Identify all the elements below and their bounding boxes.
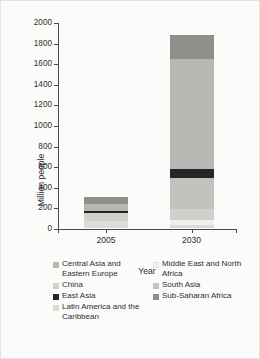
- legend-label: Middle East and North Africa: [162, 259, 253, 279]
- legend-label: China: [62, 280, 83, 290]
- legend-label: Sub-Saharan Africa: [162, 291, 231, 301]
- legend-label: East Asia: [62, 291, 95, 301]
- bar-segment: [170, 178, 214, 209]
- chart-figure: Million people 0200400600800100012001400…: [0, 0, 260, 359]
- legend-column-left: Central Asia and Eastern EuropeChinaEast…: [53, 259, 147, 322]
- y-tick-mark: [54, 147, 58, 148]
- x-tick-mark: [192, 229, 193, 233]
- bar-segment: [84, 213, 128, 221]
- legend-swatch-icon: [53, 262, 59, 268]
- y-tick-label: 1200: [34, 101, 52, 109]
- legend-item[interactable]: Sub-Saharan Africa: [153, 291, 253, 301]
- y-tick-mark: [54, 105, 58, 106]
- x-tick-mark: [106, 229, 107, 233]
- bar-segment: [84, 221, 128, 228]
- y-tick-label: 200: [38, 204, 52, 212]
- legend-item[interactable]: East Asia: [53, 291, 147, 301]
- legend-swatch-icon: [153, 283, 159, 289]
- legend-item[interactable]: South Asia: [153, 280, 253, 290]
- y-tick-label: 2000: [34, 19, 52, 27]
- legend-label: South Asia: [162, 280, 200, 290]
- bar-segment: [170, 35, 214, 58]
- legend-swatch-icon: [153, 262, 159, 268]
- y-tick-label: 1600: [34, 60, 52, 68]
- legend-swatch-icon: [53, 294, 59, 300]
- y-tick-label: 600: [38, 163, 52, 171]
- x-tick-label: 2030: [182, 235, 201, 245]
- y-tick-mark: [54, 85, 58, 86]
- y-tick-label: 1000: [34, 122, 52, 130]
- legend-item[interactable]: Middle East and North Africa: [153, 259, 253, 279]
- y-tick-label: 800: [38, 142, 52, 150]
- y-tick-mark: [54, 167, 58, 168]
- stacked-bar: [84, 197, 128, 228]
- chart-legend: Central Asia and Eastern EuropeChinaEast…: [53, 259, 253, 322]
- bar-segment: [170, 225, 214, 228]
- bar-segment: [170, 169, 214, 178]
- y-tick-label: 1400: [34, 81, 52, 89]
- y-tick-label: 0: [47, 225, 52, 233]
- y-tick-mark: [54, 188, 58, 189]
- legend-item[interactable]: China: [53, 280, 147, 290]
- y-tick-mark: [54, 208, 58, 209]
- y-tick-label: 400: [38, 184, 52, 192]
- stacked-bar: [170, 35, 214, 228]
- y-tick-mark: [54, 64, 58, 65]
- legend-swatch-icon: [53, 305, 59, 311]
- x-axis-end-tick: [58, 229, 59, 233]
- legend-label: Latin America and the Caribbean: [62, 302, 147, 322]
- y-tick-label: 1800: [34, 39, 52, 47]
- bar-segment: [170, 209, 214, 220]
- legend-item[interactable]: Latin America and the Caribbean: [53, 302, 147, 322]
- legend-label: Central Asia and Eastern Europe: [62, 259, 147, 279]
- x-tick-label: 2005: [96, 235, 115, 245]
- legend-swatch-icon: [53, 283, 59, 289]
- y-tick-mark: [54, 44, 58, 45]
- y-tick-mark: [54, 23, 58, 24]
- legend-column-right: Middle East and North AfricaSouth AsiaSu…: [153, 259, 253, 322]
- plot-area: 0200400600800100012001400160018002000 20…: [58, 23, 236, 229]
- legend-swatch-icon: [153, 294, 159, 300]
- x-axis-end-tick: [236, 229, 237, 233]
- bar-segment: [170, 59, 214, 169]
- y-axis-line: [58, 23, 59, 230]
- legend-item[interactable]: Central Asia and Eastern Europe: [53, 259, 147, 279]
- y-tick-mark: [54, 126, 58, 127]
- x-axis-line: [58, 229, 237, 230]
- bar-segment: [84, 204, 128, 212]
